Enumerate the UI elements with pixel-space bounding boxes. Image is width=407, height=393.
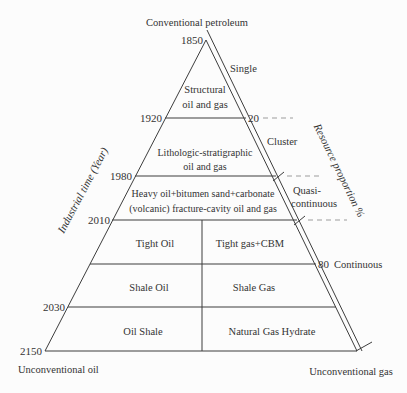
layer-structural-line2: oil and gas xyxy=(182,99,228,110)
bottom-left-caption: Unconventional oil xyxy=(18,364,99,375)
layer-heavy-line1: Heavy oil+bitumen sand+carbonate xyxy=(132,188,275,199)
stage-label-cluster: Cluster xyxy=(267,136,298,147)
top-caption: Conventional petroleum xyxy=(146,17,248,28)
layer-gas-hydrate: Natural Gas Hydrate xyxy=(229,326,316,337)
year-label-2150: 2150 xyxy=(20,345,43,357)
layer-heavy-line2: (volcanic) fracture-cavity oil and gas xyxy=(129,203,277,215)
year-label-1850: 1850 xyxy=(181,34,204,46)
layer-lithologic-line1: Lithologic-stratigraphic xyxy=(158,147,254,158)
layer-shale-oil: Shale Oil xyxy=(129,282,168,293)
pyramid-diagram: Conventional petroleum Unconventional oi… xyxy=(0,0,407,393)
proportion-label-80: 80 xyxy=(318,258,330,270)
stage-label-quasi-line2: continuous xyxy=(291,198,337,209)
layer-oil-shale: Oil Shale xyxy=(123,326,163,337)
year-label-1980: 1980 xyxy=(110,170,133,182)
proportion-label-20: 20 xyxy=(248,112,260,124)
layer-structural-line1: Structural xyxy=(184,84,225,95)
layer-lithologic-line2: oil and gas xyxy=(183,161,226,172)
year-label-2010: 2010 xyxy=(88,214,111,226)
year-label-1920: 1920 xyxy=(140,112,163,124)
layer-shale-gas: Shale Gas xyxy=(233,282,275,293)
bottom-right-caption: Unconventional gas xyxy=(309,366,393,377)
year-label-2030: 2030 xyxy=(43,301,66,313)
stage-label-single: Single xyxy=(230,63,257,74)
layer-tight-gas: Tight gas+CBM xyxy=(216,238,285,249)
stage-label-quasi-line1: Quasi- xyxy=(293,185,321,196)
stage-label-continuous: Continuous xyxy=(334,259,382,270)
layer-tight-oil: Tight Oil xyxy=(136,238,175,249)
resource-pyramid-figure: Conventional petroleum Unconventional oi… xyxy=(0,0,407,393)
